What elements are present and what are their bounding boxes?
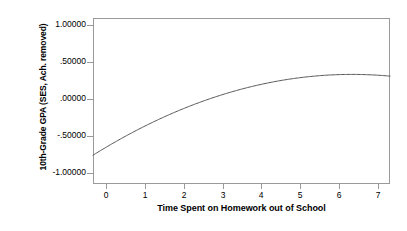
x-tick-mark: [106, 184, 107, 189]
x-tick-mark: [145, 184, 146, 189]
x-tick-mark: [223, 184, 224, 189]
x-tick-label: 7: [368, 190, 388, 200]
y-tick-label: 1.00000: [38, 19, 86, 29]
x-tick-label: 1: [135, 190, 155, 200]
y-tick-mark: [87, 173, 93, 174]
y-tick-label: .50000: [38, 56, 86, 66]
y-tick-mark: [87, 99, 93, 100]
x-tick-mark: [339, 184, 340, 189]
x-tick-mark: [261, 184, 262, 189]
y-tick-label: .00000: [38, 93, 86, 103]
x-tick-label: 4: [251, 190, 271, 200]
y-tick-mark: [87, 136, 93, 137]
y-tick-1: .50000: [38, 56, 86, 68]
y-tick-mark: [87, 25, 93, 26]
x-tick-mark: [378, 184, 379, 189]
y-tick-label: -.50000: [38, 130, 86, 140]
x-tick-mark: [300, 184, 301, 189]
x-tick-label: 0: [96, 190, 116, 200]
y-tick-3: -.50000: [38, 130, 86, 142]
y-tick-2: .00000: [38, 93, 86, 105]
plot-area: [93, 18, 390, 184]
y-tick-0: 1.00000: [38, 19, 86, 31]
x-tick-label: 3: [213, 190, 233, 200]
x-tick-mark: [184, 184, 185, 189]
y-tick-4: -1.00000: [38, 167, 86, 179]
x-tick-label: 2: [174, 190, 194, 200]
x-axis-title: Time Spent on Homework out of School: [93, 203, 390, 213]
chart-container: 10th-Grade GPA (SES, Ach. removed) 1.000…: [0, 0, 407, 231]
x-tick-label: 5: [290, 190, 310, 200]
x-tick-label: 6: [329, 190, 349, 200]
y-tick-label: -1.00000: [38, 167, 86, 177]
y-tick-mark: [87, 62, 93, 63]
